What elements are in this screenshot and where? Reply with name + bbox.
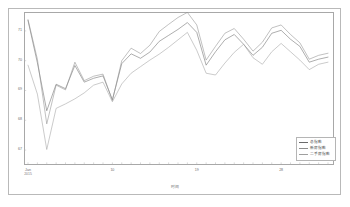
y-axis-tick-label: 68 <box>0 118 22 122</box>
legend-line-swatch <box>299 142 308 143</box>
x-axis-tick-label: 19 <box>195 168 199 172</box>
series-line-3 <box>28 32 328 149</box>
x-axis-tick-label: 10 <box>110 168 114 172</box>
y-axis-tick-label: 69 <box>0 88 22 92</box>
legend-item-label: 总指数 <box>310 141 322 145</box>
legend-item-label: 二手房指数 <box>310 153 330 157</box>
chart-legend: 总指数 新房指数 二手房指数 <box>296 137 336 161</box>
legend-item-label: 新房指数 <box>310 147 326 151</box>
legend-item[interactable]: 二手房指数 <box>299 152 333 158</box>
x-axis-title: 时间 <box>0 186 350 190</box>
y-axis-tick-label: 67 <box>0 148 22 152</box>
x-axis-tick-sublabel: 2015 <box>24 172 32 176</box>
y-axis-tick-label: 70 <box>0 59 22 63</box>
series-line-1 <box>28 20 328 110</box>
y-axis-tick-label: 71 <box>0 29 22 33</box>
legend-line-swatch <box>299 154 308 155</box>
x-axis-tick-label: 28 <box>279 168 283 172</box>
legend-line-swatch <box>299 148 308 149</box>
x-axis-tick-label: Jan2015 <box>24 168 32 177</box>
chart-figure: 6768697071 Jan2015101928 时间 总指数 新房指数 二手房… <box>0 0 350 207</box>
line-chart-plot <box>24 12 334 165</box>
